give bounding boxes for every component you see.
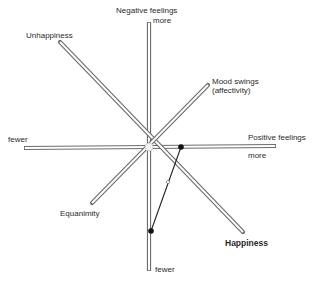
label-negative-feelings: Negative feelings: [116, 6, 177, 15]
label-horizontal-fewer: fewer: [8, 135, 28, 144]
positive-feelings-point: [178, 144, 184, 150]
label-equanimity: Equanimity: [60, 209, 100, 218]
negative-feelings-point: [148, 228, 154, 234]
label-positive-more: more: [248, 151, 266, 160]
label-mood-swings-line2: (affectivity): [212, 86, 251, 95]
label-vertical-fewer: fewer: [155, 265, 175, 274]
intersection-mark: [166, 180, 169, 183]
label-positive-feelings: Positive feelings: [248, 133, 306, 142]
label-mood-swings-line1: Mood swings: [212, 77, 259, 86]
label-happiness: Happiness: [225, 239, 268, 248]
label-negative-more: more: [153, 16, 171, 25]
label-unhappiness: Unhappiness: [26, 31, 73, 40]
axis-unhappiness-happiness: [60, 42, 243, 232]
center-hub: [145, 143, 153, 151]
connector-line: [151, 147, 181, 231]
